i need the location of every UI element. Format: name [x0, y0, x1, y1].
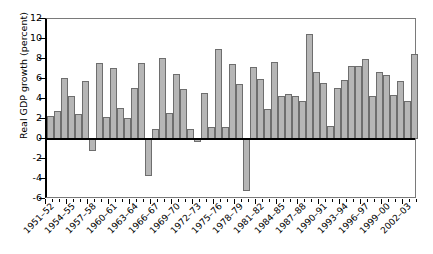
bar [404, 101, 410, 139]
x-tick-mark [206, 199, 207, 202]
x-tick-mark [395, 199, 396, 202]
x-tick-mark [185, 199, 186, 202]
bar [201, 93, 207, 139]
bar [145, 139, 151, 176]
bar [110, 68, 116, 139]
bar [390, 95, 396, 139]
x-tick-mark [332, 199, 333, 202]
x-tick-mark [52, 199, 53, 202]
y-tick-label: 6 [2, 73, 42, 83]
x-tick-mark [122, 199, 123, 202]
y-tick-label: -4 [2, 173, 42, 183]
chart-figure: Real GDP growth (percent) 121086420-2-4-… [0, 0, 433, 254]
bar [180, 89, 186, 139]
bar [355, 66, 361, 139]
bar [61, 78, 67, 139]
bar [47, 116, 53, 139]
bar [243, 139, 249, 191]
bar [257, 79, 263, 139]
bar [334, 88, 340, 139]
x-tick-mark [262, 199, 263, 202]
bar [215, 49, 221, 139]
x-tick-mark [374, 199, 375, 202]
y-tick-label: -2 [2, 153, 42, 163]
y-tick-label: 2 [2, 113, 42, 123]
x-tick-mark [367, 199, 368, 202]
zero-baseline [47, 138, 415, 140]
x-tick-mark [59, 199, 60, 202]
x-tick-mark [248, 199, 249, 202]
bar [383, 75, 389, 139]
bar-series [47, 19, 415, 197]
y-tick-label: -6 [2, 193, 42, 203]
x-tick-mark [346, 199, 347, 202]
bar [285, 94, 291, 139]
bar [138, 63, 144, 139]
bar [250, 67, 256, 139]
bar [397, 81, 403, 139]
x-tick-mark [311, 199, 312, 202]
y-tick-label: 4 [2, 93, 42, 103]
bar [320, 83, 326, 139]
bar [271, 62, 277, 139]
plot-area [45, 18, 416, 198]
x-tick-mark [325, 199, 326, 202]
x-tick-mark [416, 199, 417, 202]
bar [131, 88, 137, 139]
bar [89, 139, 95, 151]
bar [411, 54, 417, 139]
x-tick-mark [73, 199, 74, 202]
y-tick-label: 8 [2, 53, 42, 63]
bar [75, 114, 81, 139]
bar [264, 109, 270, 139]
x-tick-mark [80, 199, 81, 202]
x-tick-mark [304, 199, 305, 202]
x-tick-mark [227, 199, 228, 202]
bar [341, 80, 347, 139]
bar [173, 74, 179, 139]
x-tick-mark [353, 199, 354, 202]
bar [124, 118, 130, 139]
x-tick-mark [143, 199, 144, 202]
bar [348, 66, 354, 139]
bar [369, 96, 375, 139]
bar [376, 72, 382, 139]
bar [166, 113, 172, 139]
bar [236, 84, 242, 139]
x-tick-mark [199, 199, 200, 202]
x-tick-mark [164, 199, 165, 202]
bar [159, 58, 165, 139]
bar [299, 101, 305, 139]
bar [229, 64, 235, 139]
x-tick-mark [241, 199, 242, 202]
x-tick-mark [157, 199, 158, 202]
bar [278, 96, 284, 139]
x-tick-mark [269, 199, 270, 202]
bar [306, 34, 312, 139]
y-tick-label: 12 [2, 13, 42, 23]
bar [68, 96, 74, 139]
bar [82, 81, 88, 139]
x-tick-mark [94, 199, 95, 202]
bar [117, 108, 123, 139]
x-tick-mark [136, 199, 137, 202]
x-tick-mark [115, 199, 116, 202]
x-tick-mark [178, 199, 179, 202]
bar [54, 111, 60, 139]
bar [362, 59, 368, 139]
y-tick-label: 10 [2, 33, 42, 43]
x-tick-mark [409, 199, 410, 202]
x-tick-mark [388, 199, 389, 202]
bar [96, 63, 102, 139]
bar [313, 72, 319, 139]
x-tick-mark [220, 199, 221, 202]
x-tick-mark [283, 199, 284, 202]
bar [292, 96, 298, 139]
x-tick-mark [290, 199, 291, 202]
x-tick-mark [101, 199, 102, 202]
bar [103, 117, 109, 139]
y-tick-label: 0 [2, 133, 42, 143]
